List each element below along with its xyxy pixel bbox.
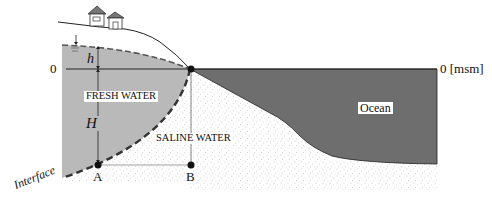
point-a-label: A (93, 170, 102, 183)
house-icon (88, 6, 106, 26)
fresh-water-label: FRESH WATER (84, 91, 158, 102)
saline-water-label: SALINE WATER (154, 133, 233, 144)
point-b-label: B (186, 170, 195, 183)
saltwater-intrusion-diagram (0, 0, 492, 206)
H-label: H (84, 116, 99, 131)
h-label: h (87, 52, 94, 66)
point-a-marker (95, 162, 102, 169)
water-table-marker-arrowhead (74, 42, 78, 45)
point-b-marker (188, 162, 195, 169)
house-icon (107, 12, 124, 29)
zero-left-label: 0 (50, 62, 57, 75)
zero-right-label: 0 [msm] (440, 62, 484, 75)
shoreline-point (188, 66, 195, 73)
ocean-label: Ocean (358, 102, 393, 114)
